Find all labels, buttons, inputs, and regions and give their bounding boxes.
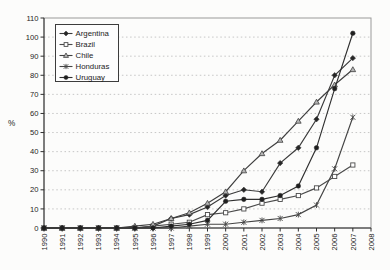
legend-label: Chile bbox=[76, 51, 94, 60]
x-axis-label: 2002 bbox=[258, 234, 267, 251]
x-axis-label: 1999 bbox=[203, 234, 212, 251]
x-axis-label: 1994 bbox=[112, 234, 121, 251]
x-axis-label: 2005 bbox=[312, 234, 321, 251]
asterisk-marker bbox=[332, 166, 337, 172]
x-axis-label: 2004 bbox=[294, 234, 303, 251]
legend-label: Brazil bbox=[76, 40, 96, 49]
x-axis-label: 2000 bbox=[221, 234, 230, 251]
open-square-marker bbox=[333, 174, 337, 178]
filled-circle-marker bbox=[60, 226, 65, 231]
legend-label: Honduras bbox=[76, 62, 110, 71]
y-axis-label: 90 bbox=[30, 52, 38, 61]
x-axis-label: 1996 bbox=[149, 234, 158, 251]
filled-circle-marker bbox=[114, 226, 119, 231]
filled-circle-marker bbox=[242, 197, 247, 202]
y-axis-label: 70 bbox=[30, 90, 38, 99]
filled-circle-marker bbox=[64, 75, 68, 79]
y-axis-label: 60 bbox=[30, 109, 38, 118]
open-square-marker bbox=[224, 211, 228, 215]
open-square-marker bbox=[351, 163, 355, 167]
x-axis-label: 1992 bbox=[76, 234, 85, 251]
x-axis-label: 2003 bbox=[276, 234, 285, 251]
y-axis-label: 50 bbox=[30, 128, 38, 137]
filled-circle-marker bbox=[133, 226, 138, 231]
y-axis-title: % bbox=[8, 119, 15, 128]
y-axis-label: 20 bbox=[30, 185, 38, 194]
open-square-marker bbox=[242, 207, 246, 211]
filled-circle-marker bbox=[351, 31, 356, 36]
x-axis-label: 1991 bbox=[58, 234, 67, 251]
filled-circle-marker bbox=[223, 199, 228, 204]
y-axis-label: 0 bbox=[34, 224, 38, 233]
filled-circle-marker bbox=[296, 184, 301, 189]
filled-circle-marker bbox=[42, 226, 47, 231]
triangle-marker bbox=[350, 67, 356, 72]
filled-circle-marker bbox=[314, 146, 319, 151]
filled-circle-marker bbox=[205, 218, 210, 223]
filled-circle-marker bbox=[78, 226, 83, 231]
legend: ArgentinaBrazilChileHondurasUruguay bbox=[56, 25, 119, 83]
filled-circle-marker bbox=[260, 197, 265, 202]
series-chile bbox=[41, 67, 355, 230]
line-chart-figure: 0102030405060708090100110199019911992199… bbox=[0, 0, 390, 270]
x-axis-label: 2008 bbox=[367, 234, 376, 251]
x-axis-label: 2007 bbox=[349, 234, 358, 251]
filled-diamond-marker bbox=[259, 189, 264, 194]
filled-circle-marker bbox=[151, 226, 156, 231]
x-axis-label: 2001 bbox=[240, 234, 249, 251]
series-brazil bbox=[42, 163, 355, 230]
series-line bbox=[44, 70, 353, 229]
open-square-marker bbox=[205, 213, 209, 217]
y-axis-label: 40 bbox=[30, 147, 38, 156]
asterisk-marker bbox=[350, 114, 355, 120]
filled-diamond-marker bbox=[314, 116, 319, 121]
asterisk-marker bbox=[314, 202, 319, 208]
x-axis-label: 1995 bbox=[131, 234, 140, 251]
line-chart: 0102030405060708090100110199019911992199… bbox=[0, 0, 390, 270]
legend-label: Uruguay bbox=[76, 73, 106, 82]
open-square-marker bbox=[64, 43, 68, 47]
y-axis-label: 10 bbox=[30, 205, 38, 214]
open-square-marker bbox=[296, 193, 300, 197]
x-axis-label: 1998 bbox=[185, 234, 194, 251]
triangle-marker bbox=[205, 200, 211, 205]
x-axis-label: 2006 bbox=[330, 234, 339, 251]
filled-circle-marker bbox=[96, 226, 101, 231]
x-axis-label: 1993 bbox=[94, 234, 103, 251]
legend-label: Argentina bbox=[76, 29, 110, 38]
filled-diamond-marker bbox=[241, 187, 246, 192]
y-axis-label: 30 bbox=[30, 166, 38, 175]
x-axis-label: 1990 bbox=[40, 234, 49, 251]
y-axis-label: 110 bbox=[26, 14, 38, 23]
filled-circle-marker bbox=[332, 86, 337, 91]
filled-circle-marker bbox=[278, 193, 283, 198]
open-square-marker bbox=[314, 186, 318, 190]
filled-circle-marker bbox=[187, 222, 192, 227]
y-axis-label: 100 bbox=[26, 33, 39, 42]
filled-circle-marker bbox=[169, 224, 174, 229]
series-line bbox=[44, 165, 353, 228]
series-line bbox=[44, 58, 353, 228]
triangle-marker bbox=[187, 210, 193, 215]
x-axis-label: 1997 bbox=[167, 234, 176, 251]
y-axis-label: 80 bbox=[30, 71, 38, 80]
